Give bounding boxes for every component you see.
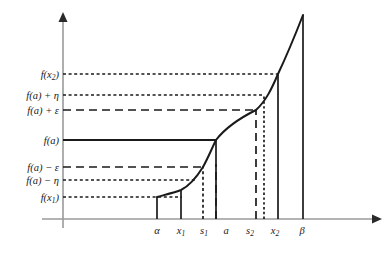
y-label-f-x1: f(x1): [41, 192, 60, 205]
x-label-alpha: α: [154, 225, 160, 236]
x-label-a: a: [223, 225, 228, 236]
axes-group: [42, 12, 382, 228]
function-curve: [157, 15, 303, 197]
horizontal-construction-lines: [63, 74, 278, 197]
x-label-s2: s2: [246, 225, 254, 238]
x-label-x2: x2: [270, 225, 280, 238]
y-label-f-a-minus-epsilon: f(a) − ε: [27, 162, 59, 174]
x-label-x1: x1: [176, 225, 185, 238]
x-axis-labels: α x1 s1 a s2 x2 β: [154, 225, 305, 238]
y-label-f-a: f(a): [44, 135, 60, 147]
x-axis-arrow-icon: [372, 215, 382, 224]
vertical-construction-lines: [157, 15, 303, 219]
y-label-f-a-minus-eta: f(a) − η: [26, 175, 59, 187]
y-axis-labels: f(x2) f(a) + η f(a) + ε f(a) f(a) − ε f(…: [26, 69, 60, 205]
y-axis-arrow-icon: [59, 12, 68, 22]
y-label-f-a-plus-epsilon: f(a) + ε: [27, 105, 59, 117]
y-label-f-x2: f(x2): [41, 69, 60, 82]
y-label-f-a-plus-eta: f(a) + η: [26, 90, 59, 102]
x-label-s1: s1: [200, 225, 208, 238]
x-label-beta: β: [298, 225, 305, 236]
figure-canvas: f(x2) f(a) + η f(a) + ε f(a) f(a) − ε f(…: [0, 0, 392, 254]
diagram-svg: f(x2) f(a) + η f(a) + ε f(a) f(a) − ε f(…: [0, 0, 392, 254]
